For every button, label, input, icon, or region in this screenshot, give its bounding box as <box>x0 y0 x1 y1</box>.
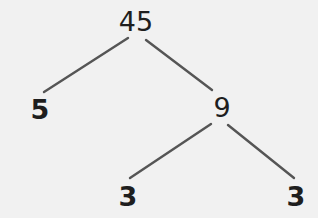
node-factor-3-left: 3 <box>119 183 138 210</box>
node-factor-5: 5 <box>31 96 50 123</box>
edge-9-to-3-left <box>130 124 211 178</box>
node-root: 45 <box>119 8 153 35</box>
edge-45-to-5 <box>44 38 128 92</box>
node-factor-9: 9 <box>213 94 230 121</box>
factor-tree: 45 5 9 3 3 <box>0 0 318 218</box>
edge-45-to-9 <box>146 40 212 90</box>
edge-9-to-3-right <box>228 125 294 178</box>
node-factor-3-right: 3 <box>287 183 306 210</box>
